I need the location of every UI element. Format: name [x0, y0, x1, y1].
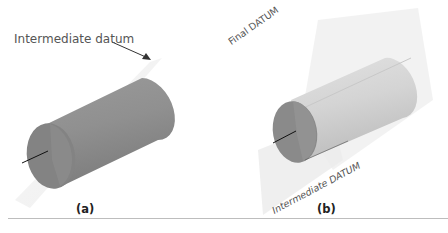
intermediate-datum-label: Intermediate datum: [14, 32, 134, 46]
bottom-divider: [8, 218, 448, 219]
cylinder-b-illustration: [223, 0, 446, 233]
arrowhead-icon: [142, 53, 151, 60]
caption-a: (a): [76, 202, 94, 216]
panel-b: Final DATUM Intermediate DATUM (b): [223, 0, 446, 233]
panel-a: Intermediate datum (a): [0, 0, 223, 233]
caption-b: (b): [317, 202, 336, 216]
